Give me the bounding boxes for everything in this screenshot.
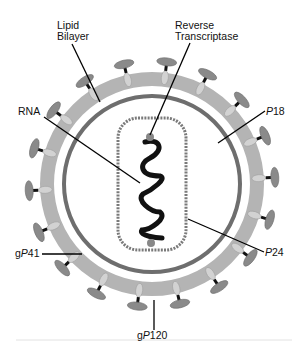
label-gp120: gP120 (137, 330, 167, 341)
label-p18: P18 (266, 106, 285, 117)
leader-lipid-bilayer (72, 44, 100, 102)
label-lipid-bilayer: Lipid Bilayer (57, 20, 89, 42)
label-p24: P24 (265, 247, 284, 258)
reverse-transcriptase-dot-bottom (147, 239, 155, 247)
label-gp41: gP41 (15, 248, 40, 259)
label-rna: RNA (18, 106, 40, 117)
hiv-virion-diagram (0, 0, 303, 359)
rna-strand (141, 141, 162, 238)
label-reverse-transcriptase: Reverse Transcriptase (175, 20, 238, 42)
